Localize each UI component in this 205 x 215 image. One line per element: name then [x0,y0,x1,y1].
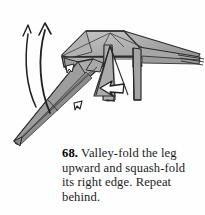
origami-diagram-svg [0,0,205,160]
step-instruction-text: Valley-fold the leg upward and squash-fo… [62,146,185,204]
valley-fold-arrow-outer-head [23,25,31,36]
origami-instruction-page: 68. Valley-fold the leg upward and squas… [0,0,205,215]
step-number: 68. [62,146,78,160]
leg-foot-left [106,100,115,101]
valley-fold-arrow-outer-shaft [26,34,36,107]
leg-crease-arrow [74,101,82,110]
leg-center-crease [18,67,97,141]
origami-diagram-figure [0,0,205,160]
step-caption: 68. Valley-fold the leg upward and squas… [62,146,198,204]
